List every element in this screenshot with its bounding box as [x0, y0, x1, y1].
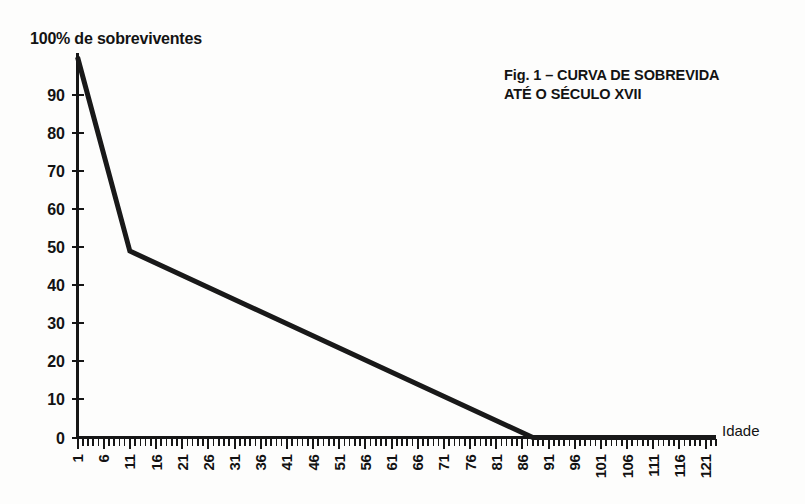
x-tick-label-1: 1 — [69, 454, 86, 462]
y-tick-label-60: 60 — [47, 201, 65, 218]
y-tick-label-0: 0 — [56, 430, 65, 447]
figure-container: 100% de sobreviventes Fig. 1 – CURVA DE … — [0, 0, 805, 504]
y-tick-label-10: 10 — [47, 391, 65, 408]
x-tick-label-116: 116 — [671, 454, 688, 477]
y-tick-label-40: 40 — [47, 277, 65, 294]
y-axis-label-group: 0102030405060708090 — [47, 87, 65, 446]
x-tick-label-121: 121 — [697, 454, 714, 478]
y-tick-label-80: 80 — [47, 125, 65, 142]
y-tick-label-30: 30 — [47, 315, 65, 332]
y-tick-label-20: 20 — [47, 353, 65, 370]
x-tick-label-26: 26 — [200, 454, 217, 470]
x-tick-label-71: 71 — [435, 454, 452, 470]
x-tick-label-66: 66 — [409, 454, 426, 470]
x-tick-label-41: 41 — [278, 454, 295, 470]
y-tick-label-50: 50 — [47, 239, 65, 256]
x-tick-label-91: 91 — [540, 454, 557, 470]
x-tick-label-76: 76 — [462, 454, 479, 470]
x-tick-label-6: 6 — [95, 454, 112, 462]
y-tick-label-90: 90 — [47, 87, 65, 104]
x-tick-label-11: 11 — [121, 454, 138, 469]
x-tick-label-51: 51 — [331, 454, 348, 470]
x-tick-label-21: 21 — [174, 454, 191, 470]
x-tick-label-36: 36 — [252, 454, 269, 470]
x-tick-label-106: 106 — [619, 454, 636, 478]
x-tick-label-56: 56 — [357, 454, 374, 470]
x-tick-label-16: 16 — [148, 454, 165, 470]
x-tick-label-96: 96 — [566, 454, 583, 470]
x-tick-label-86: 86 — [514, 454, 531, 470]
y-tick-label-70: 70 — [47, 163, 65, 180]
x-tick-label-46: 46 — [305, 454, 322, 470]
x-tick-label-111: 111 — [645, 454, 662, 476]
x-tick-label-31: 31 — [226, 454, 243, 470]
survival-curve-line — [78, 57, 717, 438]
x-tick-label-61: 61 — [383, 454, 400, 470]
x-tick-label-81: 81 — [488, 454, 505, 470]
survival-curve-plot: 0102030405060708090 16111621263136414651… — [0, 0, 805, 504]
x-axis-label-group: 1611162126313641465156616671768186919610… — [69, 454, 714, 478]
x-tick-label-101: 101 — [592, 454, 609, 478]
